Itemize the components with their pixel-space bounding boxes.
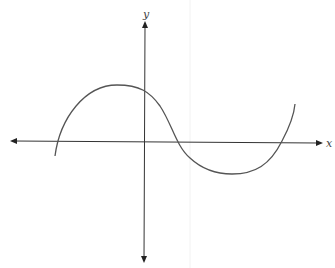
x-axis-label: x bbox=[326, 137, 333, 150]
x-axis-right-arrow-icon bbox=[316, 140, 323, 146]
x-axis-left-arrow-icon bbox=[10, 138, 17, 144]
cubic-curve bbox=[55, 85, 295, 174]
y-axis-label: y bbox=[142, 8, 150, 21]
function-graph-diagram: x y bbox=[0, 0, 335, 268]
y-axis-down-arrow-icon bbox=[141, 256, 147, 263]
y-axis-up-arrow-icon bbox=[142, 21, 148, 28]
graph-svg: x y bbox=[0, 0, 335, 268]
